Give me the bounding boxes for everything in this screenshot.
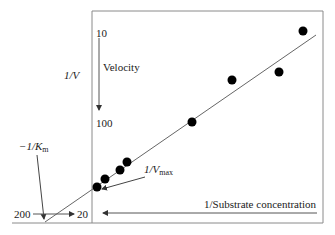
fit-line [45,35,316,222]
x-tick-20: 20 [77,209,88,220]
y-tick-10: 10 [96,28,107,39]
y-tick-100: 100 [96,118,113,129]
km-label-sub: m [42,145,48,154]
data-point [123,158,132,167]
data-point [299,27,308,36]
data-point [188,118,197,127]
km-label-main: −1/K [19,140,42,152]
km-pointer-arrow-icon [37,155,44,219]
x-axis-label: 1/Substrate concentration [204,199,316,210]
y-axis-label: 1/V [64,70,79,81]
velocity-label: Velocity [103,62,140,73]
plot-frame [12,11,323,223]
data-point [275,68,284,77]
vmax-label-main: 1/V [144,163,159,175]
x-tick-200: 200 [14,209,31,220]
data-point [101,175,110,184]
vmax-label-sub: max [159,168,173,177]
vmax-label: 1/Vmax [144,164,173,177]
data-point [116,166,125,175]
km-label: −1/Km [19,141,49,154]
data-point [228,76,237,85]
data-point [93,183,102,192]
